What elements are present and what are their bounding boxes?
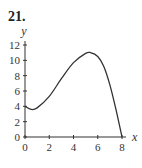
x-tick-label: 4 xyxy=(71,141,77,153)
x-tick-label: 2 xyxy=(47,141,53,153)
y-tick-label: 8 xyxy=(15,70,21,82)
x-axis-label: x xyxy=(131,130,138,144)
chart: 02468024681012xy xyxy=(0,0,142,168)
axes: 02468024681012xy xyxy=(9,24,138,153)
y-axis-label: y xyxy=(20,24,27,38)
x-tick-label: 8 xyxy=(119,141,125,153)
y-tick-label: 4 xyxy=(15,100,21,112)
data-curve xyxy=(25,52,122,137)
y-tick-label: 0 xyxy=(15,131,21,143)
y-tick-label: 2 xyxy=(15,116,21,128)
y-tick-label: 12 xyxy=(9,39,20,51)
x-tick-label: 0 xyxy=(22,141,28,153)
x-tick-label: 6 xyxy=(95,141,101,153)
y-tick-label: 6 xyxy=(15,85,21,97)
y-tick-label: 10 xyxy=(9,54,21,66)
